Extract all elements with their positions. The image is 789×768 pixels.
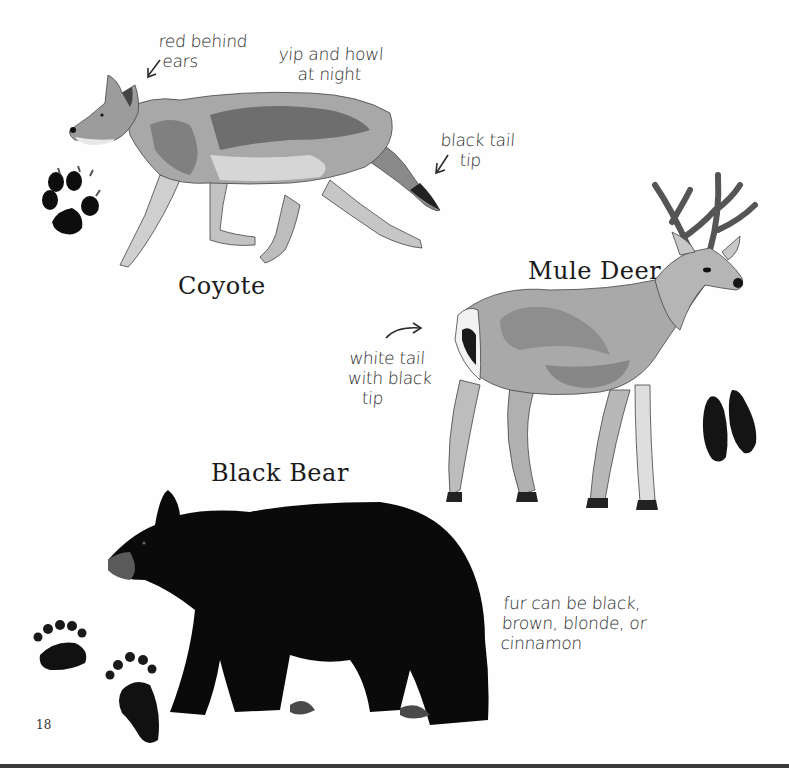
mule-deer-illustration xyxy=(440,170,760,520)
deer-hoof-print-icon xyxy=(700,385,760,467)
title-coyote: Coyote xyxy=(178,272,266,300)
note-white-tail: white tail with black tip xyxy=(346,348,434,408)
note-fur-colors: fur can be black, brown, blonde, or cinn… xyxy=(500,593,649,653)
page-number: 18 xyxy=(36,718,51,732)
coyote-paw-print-icon xyxy=(38,164,106,240)
coyote-illustration xyxy=(60,55,450,280)
field-guide-page: red behind ears yip and howl at night bl… xyxy=(0,0,789,768)
page-bottom-edge xyxy=(0,764,789,768)
